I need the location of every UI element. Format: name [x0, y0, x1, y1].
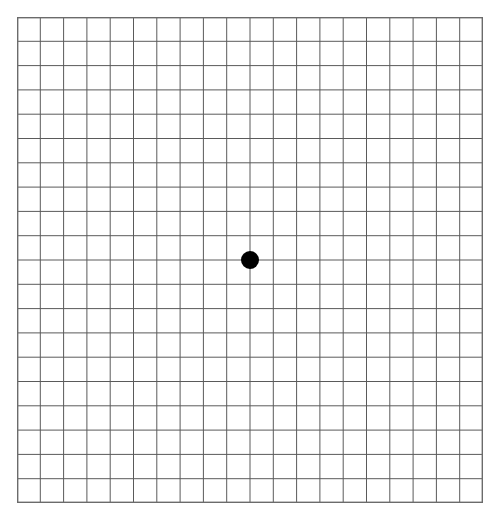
amsler-grid-screen: Amsler Grid — [0, 0, 499, 519]
center-fixation-dot — [241, 251, 259, 269]
